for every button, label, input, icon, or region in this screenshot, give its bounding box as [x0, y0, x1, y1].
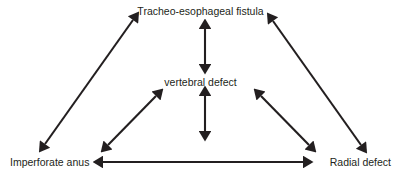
- node-label-imperforate-anus: Imperforate anus: [10, 157, 89, 168]
- arrow-radial-tef: [273, 21, 361, 145]
- arrow-anus-vertebral: [108, 96, 156, 145]
- arrow-radial-vertebral: [261, 96, 309, 145]
- node-label-vertebral-defect: vertebral defect: [164, 77, 236, 88]
- node-label-tracheo-esophageal-fistula: Tracheo-esophageal fistula: [137, 6, 263, 17]
- node-label-radial-defect: Radial defect: [330, 157, 391, 168]
- arrow-layer: [0, 0, 401, 176]
- diagram-canvas: Tracheo-esophageal fistula vertebral def…: [0, 0, 401, 176]
- arrow-anus-tef: [45, 20, 133, 144]
